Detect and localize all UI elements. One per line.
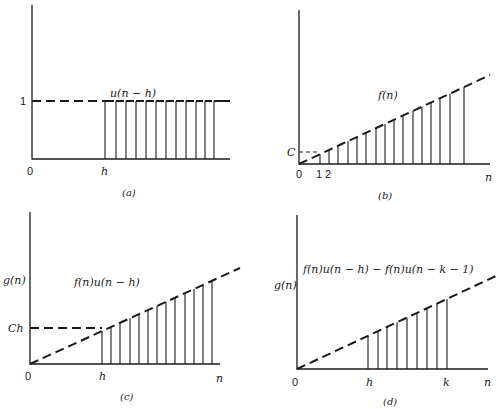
panel-a-origin-label: 0	[27, 165, 33, 177]
signal-figure: u(n − h) 1 0 h (a) f(n) C 0 1 2 n (b) g(…	[0, 0, 496, 409]
panel-b-origin-label: 0	[296, 168, 302, 180]
panel-d-caption: (d)	[383, 396, 397, 407]
panel-a-unit-step: u(n − h) 1 0 h (a)	[20, 5, 230, 198]
panel-a-h-label: h	[101, 165, 108, 178]
panel-c-caption: (c)	[120, 391, 134, 402]
panel-c-h-label: h	[99, 370, 106, 383]
panel-d-k-label: k	[443, 376, 450, 389]
panel-a-caption: (a)	[122, 187, 136, 198]
panel-d-curve-label: f(n)u(n − h) − f(n)u(n − k − 1)	[302, 263, 474, 276]
panel-d-yaxis-label: g(n)	[274, 279, 297, 292]
panel-b-c-label: C	[287, 146, 296, 159]
panel-a-level-label: 1	[20, 95, 26, 107]
axes	[297, 215, 488, 369]
panel-a-curve-label: u(n − h)	[110, 87, 156, 100]
panel-c-gated-ramp: g(n) f(n)u(n − h) Ch 0 h n (c)	[3, 212, 240, 402]
panel-b-caption: (b)	[378, 190, 392, 201]
panel-b-tick-2-label: 2	[325, 168, 331, 180]
panel-d-n-label: n	[484, 376, 491, 389]
panel-a-plot	[32, 5, 230, 159]
panel-b-ramp: f(n) C 0 1 2 n (b)	[287, 10, 492, 201]
panel-d-plot	[297, 215, 496, 369]
panel-d-origin-label: 0	[292, 376, 298, 388]
panel-c-curve-label: f(n)u(n − h)	[73, 276, 140, 289]
panel-d-h-label: h	[366, 376, 373, 389]
panel-b-plot	[299, 10, 490, 164]
panel-c-yaxis-label: g(n)	[3, 274, 26, 287]
panel-b-n-label: n	[485, 171, 492, 184]
panel-c-ch-label: Ch	[8, 322, 24, 335]
panel-b-tick-1-label: 1	[316, 168, 322, 180]
panel-d-windowed-ramp: f(n)u(n − h) − f(n)u(n − k − 1) g(n) 0 h…	[274, 215, 496, 407]
panel-c-n-label: n	[216, 372, 223, 385]
panel-b-curve-label: f(n)	[377, 89, 398, 102]
axes	[32, 5, 230, 159]
panel-c-origin-label: 0	[25, 370, 31, 382]
